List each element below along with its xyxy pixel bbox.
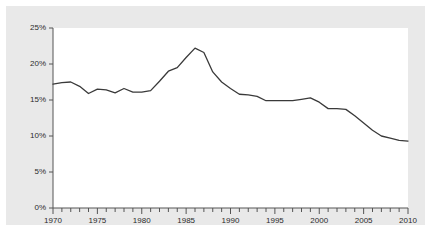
x-axis-tick-label: 2010 [399,217,417,225]
y-axis-ticks [49,28,53,208]
x-axis-tick-label: 1975 [88,217,106,225]
y-axis-tick-label: 20% [30,60,46,68]
y-axis-tick-label: 15% [30,96,46,104]
data-series-line [53,48,408,141]
x-axis-tick-label: 1995 [266,217,284,225]
x-axis-tick-label: 1970 [44,217,62,225]
y-axis-tick-label: 25% [30,24,46,32]
x-axis-tick-label: 1990 [222,217,240,225]
x-axis-ticks [53,208,408,214]
y-axis-tick-label: 5% [34,168,46,176]
x-axis-tick-label: 1985 [177,217,195,225]
y-axis-tick-label: 10% [30,132,46,140]
y-axis-tick-label: 0% [34,204,46,212]
chart-container: 0%5%10%15%20%25% 19701975198019851990199… [0,0,431,240]
x-axis-tick-label: 2005 [355,217,373,225]
chart-svg [0,0,431,240]
x-axis-tick-label: 1980 [133,217,151,225]
x-axis-tick-label: 2000 [310,217,328,225]
